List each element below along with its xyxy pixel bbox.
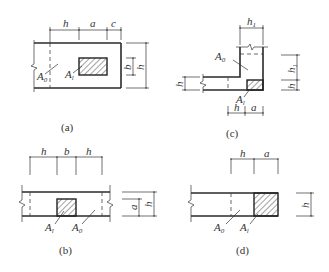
dim-label-h: h bbox=[41, 145, 47, 157]
panel-a: h a c A0 Al b h (a) bbox=[31, 17, 149, 134]
area-label-a0: A0 bbox=[71, 221, 83, 235]
panel-a-hatched-area bbox=[79, 58, 107, 75]
dim-label-h-left: h bbox=[173, 81, 185, 87]
area-label-a0: A0 bbox=[213, 221, 225, 235]
leader-a0 bbox=[45, 64, 58, 74]
caption-b: (b) bbox=[59, 244, 72, 257]
panel-b: h b h Al A0 a h (b) bbox=[19, 145, 157, 257]
panel-a-right-dimension: b h bbox=[121, 43, 149, 88]
panel-c-hatched-area bbox=[247, 80, 263, 90]
local-compression-area-diagram: h a c A0 Al b h (a) bbox=[0, 0, 329, 272]
caption-a: (a) bbox=[61, 121, 74, 134]
caption-d: (d) bbox=[236, 244, 249, 257]
dim-label-c: c bbox=[111, 17, 116, 29]
area-label-al: Al bbox=[239, 221, 249, 235]
caption-c: (c) bbox=[226, 127, 239, 140]
panel-a-top-dimension: h a c bbox=[50, 17, 121, 43]
dim-label-h-right: h bbox=[285, 83, 297, 89]
panel-d-hatched-area bbox=[254, 193, 278, 216]
dim-label-a: a bbox=[127, 204, 139, 210]
dim-label-h: h bbox=[142, 201, 154, 207]
dim-label-h: h bbox=[240, 147, 246, 159]
dim-label-h-bottom: h bbox=[234, 101, 240, 113]
area-label-al: Al bbox=[64, 68, 74, 82]
dim-label-b: b bbox=[121, 64, 133, 70]
leader-a0 bbox=[82, 210, 95, 224]
panel-d: h a A0 Al h (d) bbox=[188, 147, 314, 257]
dim-label-h1: h1 bbox=[247, 15, 256, 29]
area-label-a0: A0 bbox=[214, 50, 226, 64]
dim-label-h: h bbox=[86, 145, 92, 157]
area-label-al: Al bbox=[44, 221, 54, 235]
dim-label-a: a bbox=[90, 17, 96, 29]
leader-a0 bbox=[226, 210, 240, 224]
dim-label-b: b bbox=[64, 145, 70, 157]
panel-c: h1 A0 Al h h a h1 h (c) bbox=[173, 15, 300, 140]
dim-label-a-bottom: a bbox=[251, 101, 257, 113]
dim-label-h: h bbox=[63, 17, 69, 29]
dim-label-h: h bbox=[299, 202, 311, 208]
panel-b-hatched-area bbox=[57, 199, 76, 216]
dim-label-a: a bbox=[264, 147, 270, 159]
panel-a-break-line bbox=[31, 40, 37, 92]
dim-label-h1-right: h1 bbox=[285, 64, 299, 73]
area-label-a0: A0 bbox=[36, 70, 48, 84]
dim-label-h: h bbox=[134, 64, 146, 70]
